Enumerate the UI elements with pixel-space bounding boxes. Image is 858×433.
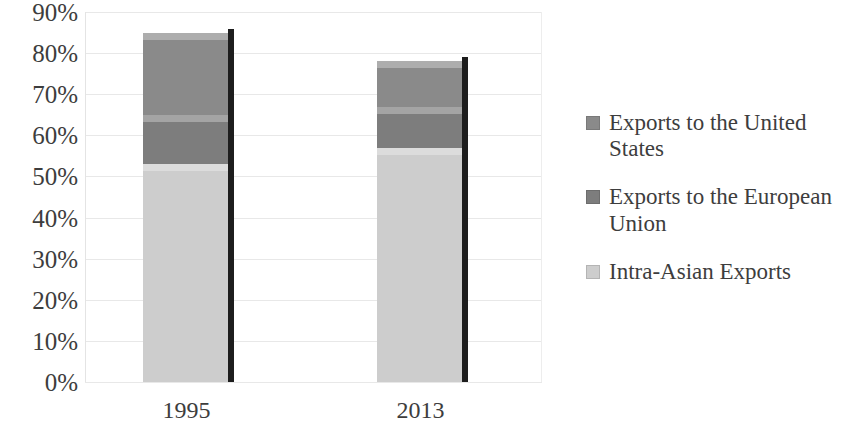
plot-right-border bbox=[541, 12, 542, 382]
bar-segment-highlight bbox=[143, 115, 230, 122]
bar-segment-highlight bbox=[377, 61, 464, 68]
y-axis-tick-label: 80% bbox=[0, 41, 78, 66]
gridline bbox=[85, 382, 542, 383]
bar-segment-united-states-2013[interactable] bbox=[377, 61, 464, 106]
x-axis-label-1995: 1995 bbox=[143, 398, 230, 422]
bar-segment-highlight bbox=[143, 33, 230, 40]
legend-item[interactable]: Intra-Asian Exports bbox=[586, 259, 854, 285]
bar-segment-highlight bbox=[377, 107, 464, 114]
bar-shadow-edge bbox=[228, 29, 234, 382]
bar-column-1995[interactable] bbox=[143, 12, 230, 382]
legend-swatch-intra-asian bbox=[586, 265, 600, 279]
y-axis: 0%10%20%30%40%50%60%70%80%90% bbox=[0, 0, 78, 394]
y-axis-tick-label: 50% bbox=[0, 164, 78, 189]
y-axis-tick-label: 10% bbox=[0, 328, 78, 353]
y-axis-line bbox=[85, 12, 86, 382]
bar-shadow-edge bbox=[462, 57, 468, 382]
y-axis-tick-label: 60% bbox=[0, 123, 78, 148]
y-axis-tick-label: 0% bbox=[0, 370, 78, 395]
bar-column-2013[interactable] bbox=[377, 12, 464, 382]
legend-label: Exports to the European Union bbox=[609, 184, 854, 236]
legend-item[interactable]: Exports to the United States bbox=[586, 110, 854, 162]
bar-segment-united-states-1995[interactable] bbox=[143, 33, 230, 115]
bar-segment-european-union-1995[interactable] bbox=[143, 115, 230, 164]
bar-segment-intra-asian-2013[interactable] bbox=[377, 148, 464, 382]
plot-area bbox=[85, 12, 542, 382]
y-axis-tick-label: 90% bbox=[0, 0, 78, 25]
y-axis-tick-label: 40% bbox=[0, 205, 78, 230]
y-axis-tick-label: 20% bbox=[0, 287, 78, 312]
legend-label: Intra-Asian Exports bbox=[609, 259, 791, 285]
legend-swatch-united-states bbox=[586, 116, 600, 130]
bar-segment-highlight bbox=[377, 148, 464, 155]
y-axis-tick-label: 70% bbox=[0, 82, 78, 107]
x-axis-label-2013: 2013 bbox=[377, 398, 464, 422]
legend-swatch-european-union bbox=[586, 190, 600, 204]
bar-segment-european-union-2013[interactable] bbox=[377, 107, 464, 148]
bar-segment-highlight bbox=[143, 164, 230, 171]
legend-label: Exports to the United States bbox=[609, 110, 854, 162]
y-axis-tick-label: 30% bbox=[0, 246, 78, 271]
legend-item[interactable]: Exports to the European Union bbox=[586, 184, 854, 236]
bar-segment-intra-asian-1995[interactable] bbox=[143, 164, 230, 382]
stacked-bar-chart: 0%10%20%30%40%50%60%70%80%90% 19952013 E… bbox=[0, 0, 858, 433]
chart-legend: Exports to the United StatesExports to t… bbox=[586, 110, 854, 307]
